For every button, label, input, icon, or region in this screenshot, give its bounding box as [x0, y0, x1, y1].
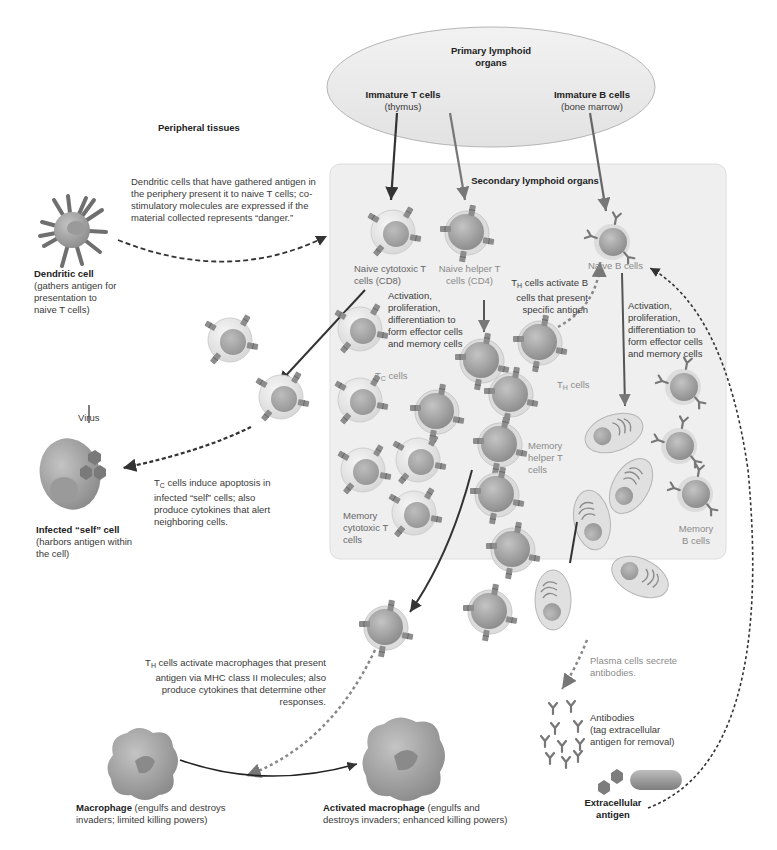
plasma-text: Plasma cells secrete antibodies.	[590, 655, 690, 679]
activated-macrophage	[362, 717, 445, 801]
tc-apoptosis-text: TC cells induce apoptosis in infected “s…	[154, 477, 284, 528]
infected-cell	[32, 431, 109, 516]
macrophage	[107, 728, 178, 800]
dendritic-cell	[40, 196, 106, 266]
memory-th-label: Memory helper T cells	[528, 440, 578, 476]
dendritic-note: Dendritic cells that have gathered antig…	[131, 176, 331, 224]
th-activate-b-text: TH cells activate B cells that present s…	[498, 277, 588, 316]
activation-b-text: Activation, proliferation, differentiati…	[628, 300, 710, 360]
infected-label: Infected “self” cell (harbors antigen wi…	[36, 524, 146, 560]
naive-b-label: Naive B cells	[588, 260, 643, 272]
peripheral-tissues-title: Peripheral tissues	[158, 122, 240, 134]
naive-tc-label: Naive cytotoxic T cells (CD8)	[354, 263, 439, 287]
immature-b-label: Immature B cells (bone marrow)	[542, 89, 642, 113]
activated-macrophage-label: Activated macrophage (engulfs and destro…	[323, 802, 513, 826]
macrophage-label: Macrophage (engulfs and destroys invader…	[76, 802, 251, 826]
antibodies-label: Antibodies (tag extracellular antigen fo…	[590, 712, 690, 748]
th-cells-label: TH cells	[557, 379, 590, 394]
secondary-organs-title: Secondary lymphoid organs	[470, 175, 600, 187]
immature-t-label: Immature T cells (thymus)	[358, 89, 448, 113]
dendritic-label: Dendritic cell (gathers antigen for pres…	[34, 268, 119, 316]
extracellular-label: Extracellular antigen	[578, 797, 648, 821]
antibodies-cluster	[541, 701, 584, 768]
naive-th-label: Naive helper T cells (CD4)	[437, 263, 502, 287]
memory-b-label: Memory B cells	[676, 523, 716, 547]
memory-tc-label: Memory cytotoxic T cells	[343, 510, 403, 546]
th-macrophage-text: TH cells activate macrophages that prese…	[134, 657, 326, 708]
virus-label: Virus	[78, 412, 99, 424]
activation-t-text: Activation, proliferation, differentiati…	[388, 290, 470, 350]
tc-cells-label: TC cells	[375, 370, 408, 385]
primary-organs-title: Primary lymphoid organs	[441, 45, 541, 69]
